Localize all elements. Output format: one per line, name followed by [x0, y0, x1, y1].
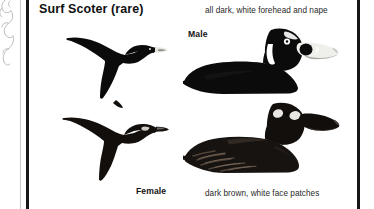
label-female: Female: [136, 186, 166, 196]
caption-male-note: all dark, white forehead and nape: [205, 6, 328, 15]
field-guide-page: Surf Scoter (rare) all dark, white foreh…: [0, 0, 374, 209]
plate-border-right: [357, 0, 360, 209]
figure-flying-male: [62, 26, 174, 100]
figure-swimming-female: [183, 100, 348, 186]
edge-sketch-fragment-icon: [0, 0, 20, 70]
plate-title: Surf Scoter (rare): [39, 2, 144, 16]
plate-border-left: [26, 0, 29, 209]
caption-female-note: dark brown, white face patches: [205, 189, 319, 198]
figure-flying-female: [60, 100, 174, 182]
page-hairline-rule: [20, 0, 21, 209]
figure-swimming-male: [183, 24, 348, 96]
